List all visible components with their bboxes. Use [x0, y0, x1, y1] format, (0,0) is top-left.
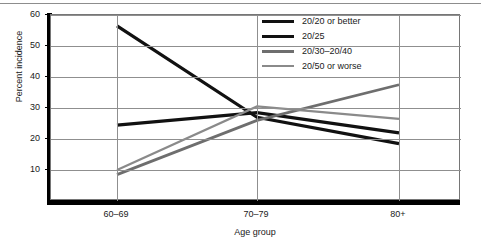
y-tick-label-10: 10 [0, 165, 40, 174]
legend-item-3: 20/50 or worse [262, 59, 412, 74]
y-tick-10 [45, 169, 50, 170]
y-tick-20 [45, 138, 50, 139]
legend-label-3: 20/50 or worse [302, 61, 362, 71]
legend-swatch-3 [262, 65, 294, 67]
y-axis-title: Percent incidence [15, 12, 24, 122]
y-tick-40 [45, 76, 50, 77]
legend-swatch-0 [262, 20, 294, 23]
y-tick-label-20: 20 [0, 134, 40, 143]
gridline-x-1 [257, 15, 258, 201]
legend-label-2: 20/30–20/40 [302, 46, 352, 56]
x-axis-title: Age group [50, 228, 460, 237]
chart-legend: 20/20 or better20/2520/30–20/4020/50 or … [262, 14, 412, 74]
y-tick-60 [45, 14, 50, 15]
legend-label-0: 20/20 or better [302, 16, 361, 26]
legend-swatch-2 [262, 50, 294, 53]
gridline-x-0 [117, 15, 118, 201]
x-tick-label-2: 80+ [358, 210, 438, 219]
y-tick-50 [45, 45, 50, 46]
legend-item-1: 20/25 [262, 29, 412, 44]
legend-item-2: 20/30–20/40 [262, 44, 412, 59]
x-tick-label-1: 70–79 [216, 210, 296, 219]
legend-swatch-1 [262, 35, 294, 38]
line-chart-figure: 102030405060 60–6970–7980+ Percent incid… [0, 0, 481, 249]
y-tick-30 [45, 107, 50, 108]
x-tick-label-0: 60–69 [76, 210, 156, 219]
legend-item-0: 20/20 or better [262, 14, 412, 29]
legend-label-1: 20/25 [302, 31, 325, 41]
series-line-2 [117, 85, 399, 175]
